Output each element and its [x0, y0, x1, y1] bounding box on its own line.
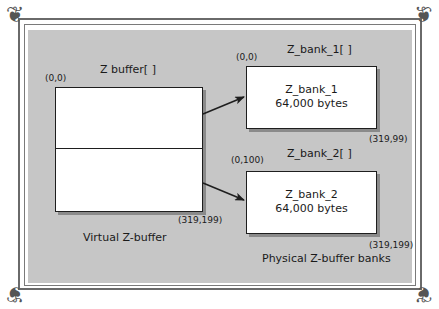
arrow-to-bank2-icon: [203, 183, 244, 200]
arrow-to-bank1-icon: [203, 97, 244, 114]
arrows: [0, 0, 439, 309]
